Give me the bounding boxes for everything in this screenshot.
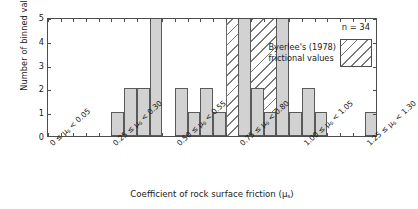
- x-axis-tick-mark: [327, 19, 328, 22]
- x-axis-tick-mark: [188, 19, 189, 22]
- x-axis-tick-mark: [111, 133, 112, 136]
- x-axis-tick-mark: [111, 19, 112, 22]
- x-axis-tick-mark: [200, 133, 201, 136]
- legend-label: Byerlee's (1978) frictional values: [268, 42, 336, 64]
- y-axis-tick-labels: 012345: [26, 18, 44, 137]
- x-axis-tick-mark: [340, 133, 341, 136]
- legend-label-line1: Byerlee's (1978): [268, 42, 336, 53]
- x-axis-tick-mark: [289, 19, 290, 22]
- x-axis-title-lead: Coefficient of rock surface friction (μ: [130, 189, 287, 199]
- x-axis-tick-mark: [264, 19, 265, 22]
- x-axis-tick-mark: [162, 19, 163, 22]
- x-axis-tick-mark: [276, 19, 277, 22]
- x-axis-tick-mark: [150, 133, 151, 136]
- x-axis-tick-mark: [289, 133, 290, 136]
- legend-label-line2: frictional values: [268, 53, 336, 64]
- x-axis-tick-mark: [238, 133, 239, 136]
- x-axis-tick-mark: [238, 19, 239, 22]
- histogram-bar: [276, 18, 289, 136]
- x-axis-tick-mark: [251, 19, 252, 22]
- y-axis-tick-mark: [373, 90, 376, 91]
- x-axis-tick-mark: [315, 19, 316, 22]
- y-tick-label: 0: [30, 133, 44, 141]
- histogram-bar: [238, 18, 251, 136]
- x-axis-tick-mark: [162, 133, 163, 136]
- x-axis-tick-mark: [48, 133, 49, 136]
- x-axis-tick-mark: [99, 133, 100, 136]
- x-axis-title: Coefficient of rock surface friction (μs…: [47, 189, 377, 199]
- x-axis-tick-labels: 0 ≤ μs < 0.050.25 ≤ μs < 0.300.50 ≤ μs <…: [47, 141, 377, 186]
- y-axis-tick-mark: [48, 90, 51, 91]
- y-axis-tick-mark: [373, 114, 376, 115]
- y-tick-label: 2: [30, 85, 44, 93]
- y-axis-tick-mark: [48, 114, 51, 115]
- y-axis-tick-mark: [48, 43, 51, 44]
- x-axis-tick-mark: [150, 19, 151, 22]
- legend: Byerlee's (1978) frictional values: [268, 39, 372, 67]
- x-axis-tick-mark: [365, 133, 366, 136]
- x-axis-tick-mark: [353, 133, 354, 136]
- x-axis-tick-mark: [175, 19, 176, 22]
- x-axis-tick-mark: [86, 133, 87, 136]
- y-tick-label: 4: [30, 38, 44, 46]
- x-axis-tick-mark: [213, 133, 214, 136]
- y-axis-tick-mark: [48, 19, 51, 20]
- y-axis-tick-mark: [373, 43, 376, 44]
- histogram-bar: [289, 112, 302, 136]
- legend-hatch-swatch: [340, 39, 372, 67]
- histogram-bar: [175, 88, 188, 136]
- x-axis-tick-mark: [302, 19, 303, 22]
- y-tick-label: 3: [30, 62, 44, 70]
- histogram-bar: [302, 88, 315, 136]
- x-axis-title-tail: ): [290, 189, 293, 199]
- x-axis-tick-mark: [124, 19, 125, 22]
- x-axis-tick-mark: [264, 133, 265, 136]
- y-axis-tick-mark: [48, 67, 51, 68]
- x-axis-tick-mark: [175, 133, 176, 136]
- sample-size-annotation: n = 34: [342, 22, 370, 32]
- histogram-bar: [150, 18, 163, 136]
- x-axis-tick-mark: [226, 133, 227, 136]
- x-axis-tick-mark: [200, 19, 201, 22]
- x-axis-tick-mark: [86, 19, 87, 22]
- x-axis-tick-mark: [61, 19, 62, 22]
- x-axis-tick-mark: [73, 19, 74, 22]
- y-tick-label: 5: [30, 14, 44, 22]
- x-axis-tick-mark: [226, 19, 227, 22]
- x-axis-tick-mark: [99, 19, 100, 22]
- x-axis-tick-mark: [327, 133, 328, 136]
- x-axis-tick-mark: [213, 19, 214, 22]
- x-axis-tick-mark: [276, 133, 277, 136]
- y-axis-tick-mark: [373, 67, 376, 68]
- y-tick-label: 1: [30, 109, 44, 117]
- y-axis-tick-mark: [373, 19, 376, 20]
- x-axis-tick-mark: [137, 133, 138, 136]
- x-axis-tick-mark: [73, 133, 74, 136]
- x-axis-tick-mark: [137, 19, 138, 22]
- x-axis-tick-mark: [302, 133, 303, 136]
